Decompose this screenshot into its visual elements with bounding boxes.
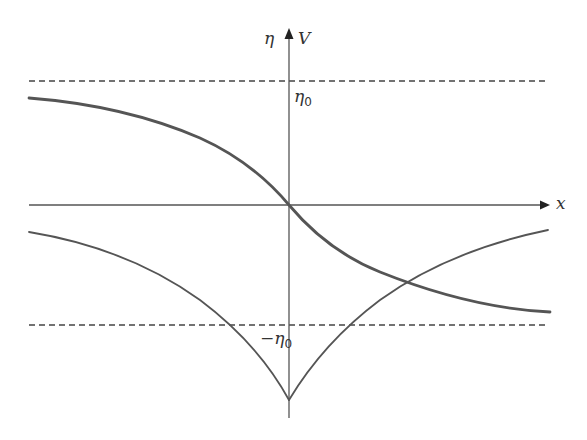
lower-level-symbol: −η xyxy=(260,328,284,348)
x-axis-arrow-icon xyxy=(540,201,550,210)
y-axis-arrow-icon xyxy=(285,28,294,39)
diagram-canvas xyxy=(0,0,587,440)
lower-level-label: −η0 xyxy=(260,330,292,350)
potential-left-branch-curve xyxy=(29,232,289,400)
upper-level-label: η0 xyxy=(294,88,312,108)
y-axis-label-eta: η xyxy=(264,30,274,47)
upper-level-symbol: η xyxy=(294,86,304,106)
x-axis-label: x xyxy=(556,195,566,212)
upper-level-subscript: 0 xyxy=(304,95,312,109)
potential-right-branch-curve xyxy=(289,230,548,400)
lower-level-subscript: 0 xyxy=(284,337,292,351)
y-axis-label-v: V xyxy=(298,30,310,47)
